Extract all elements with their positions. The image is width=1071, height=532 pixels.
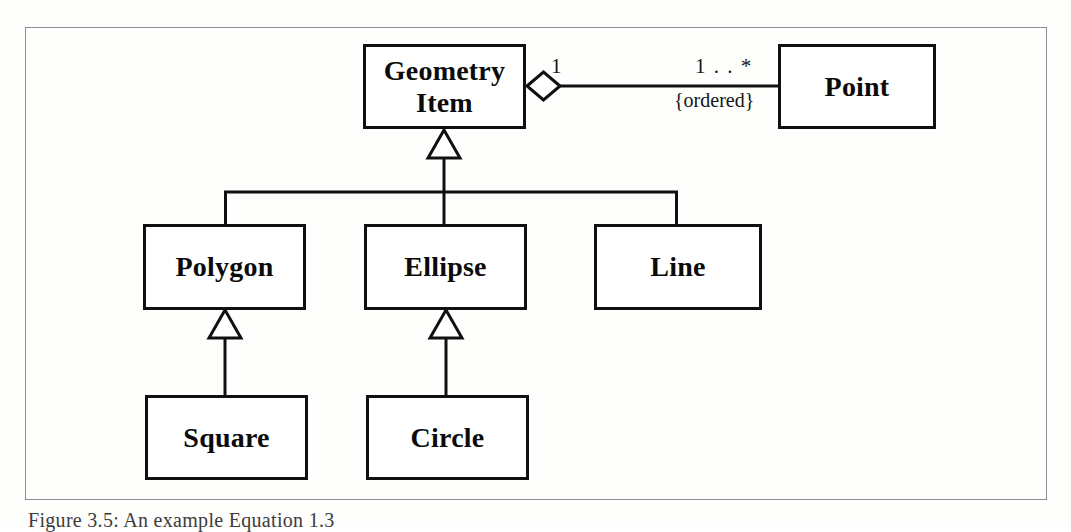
- class-name-polygon: Polygon: [146, 251, 303, 282]
- class-box-point[interactable]: Point: [778, 44, 936, 129]
- class-box-polygon[interactable]: Polygon: [143, 224, 306, 310]
- class-name-line-1: Geometry: [384, 55, 505, 86]
- class-name-point: Point: [781, 71, 933, 102]
- target-multiplicity-label: 1 . . *: [695, 54, 753, 79]
- class-name-circle: Circle: [369, 422, 526, 453]
- class-box-square[interactable]: Square: [145, 395, 308, 480]
- class-name-geometry-item: GeometryItem: [366, 55, 523, 118]
- class-name-ellipse: Ellipse: [367, 251, 524, 282]
- class-name-line-2: Item: [416, 87, 473, 118]
- figure-caption: Figure 3.5: An example Equation 1.3: [28, 509, 335, 532]
- class-box-ellipse[interactable]: Ellipse: [364, 224, 527, 310]
- class-box-geometry-item[interactable]: GeometryItem: [363, 44, 526, 129]
- source-multiplicity-label: 1: [551, 54, 562, 79]
- class-name-line: Line: [597, 251, 759, 282]
- ordered-constraint-label: {ordered}: [674, 89, 754, 112]
- class-box-circle[interactable]: Circle: [366, 395, 529, 480]
- class-name-square: Square: [148, 422, 305, 453]
- class-box-line[interactable]: Line: [594, 224, 762, 310]
